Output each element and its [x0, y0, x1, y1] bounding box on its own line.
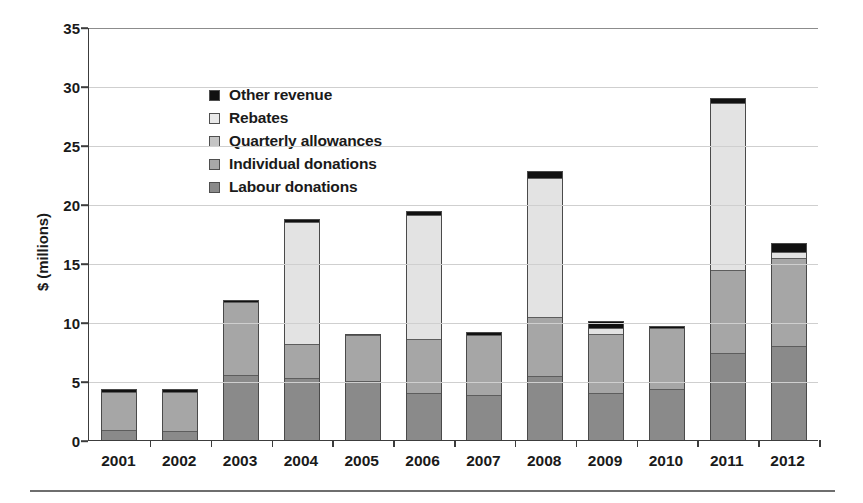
bar-segment [346, 336, 380, 382]
stacked-bar-chart: $ (millions) Other revenue Rebates Quart… [0, 0, 863, 503]
x-tick-mark [819, 440, 821, 447]
bar-segment [285, 223, 319, 345]
bar-segment [589, 394, 623, 440]
y-tick-mark-10 [81, 322, 88, 324]
footer-rule [30, 490, 835, 492]
y-tick-label-25: 25 [36, 138, 80, 155]
stacked-bar[interactable] [284, 219, 320, 440]
bar-segment [285, 345, 319, 379]
gridline-20 [89, 205, 818, 206]
bar-segment [772, 244, 806, 253]
y-tick-label-10: 10 [36, 315, 80, 332]
bar-segment [650, 329, 684, 390]
y-tick-label-35: 35 [36, 20, 80, 37]
x-tick-mark [697, 440, 699, 447]
bar-segment [224, 376, 258, 440]
bar-segment [650, 390, 684, 440]
bar-segment [407, 394, 441, 440]
bar-segment [528, 172, 562, 179]
y-tick-mark-35 [81, 27, 88, 29]
bar-slot [89, 28, 150, 440]
y-tick-mark-0 [81, 440, 88, 442]
y-tick-label-30: 30 [36, 79, 80, 96]
gridline-15 [89, 264, 818, 265]
bar-segment [224, 303, 258, 376]
bar-slot [758, 28, 819, 440]
bar-group [89, 28, 818, 440]
chart-legend: Other revenue Rebates Quarterly allowanc… [209, 84, 382, 198]
legend-swatch-labour-donations [209, 182, 220, 193]
x-tick-mark [454, 440, 456, 447]
bar-slot [454, 28, 515, 440]
x-tick-mark [332, 440, 334, 447]
x-tick-label-2012: 2012 [748, 452, 828, 470]
plot-area: Other revenue Rebates Quarterly allowanc… [88, 28, 818, 441]
bar-segment [772, 259, 806, 347]
bar-segment [467, 396, 501, 440]
bar-slot [697, 28, 758, 440]
bar-segment [711, 354, 745, 440]
bar-segment [528, 179, 562, 318]
legend-label-quarterly-allowances: Quarterly allowances [229, 132, 382, 150]
bar-segment [163, 432, 197, 440]
bar-slot [393, 28, 454, 440]
bar-slot [515, 28, 576, 440]
y-axis-title: $ (millions) [34, 213, 51, 291]
stacked-bar[interactable] [771, 243, 807, 440]
bar-slot [576, 28, 637, 440]
gridline-5 [89, 382, 818, 383]
bar-segment [711, 104, 745, 271]
legend-swatch-rebates [209, 113, 220, 124]
bar-segment [285, 379, 319, 440]
stacked-bar[interactable] [527, 171, 563, 440]
y-tick-label-5: 5 [36, 374, 80, 391]
stacked-bar[interactable] [223, 300, 259, 440]
y-tick-mark-15 [81, 263, 88, 265]
y-tick-mark-25 [81, 145, 88, 147]
stacked-bar[interactable] [466, 332, 502, 440]
bar-segment [589, 335, 623, 395]
legend-swatch-individual-donations [209, 159, 220, 170]
y-tick-mark-30 [81, 86, 88, 88]
gridline-30 [89, 87, 818, 88]
legend-label-other-revenue: Other revenue [229, 86, 332, 104]
y-tick-label-20: 20 [36, 197, 80, 214]
legend-label-labour-donations: Labour donations [229, 178, 357, 196]
gridline-10 [89, 323, 818, 324]
legend-label-individual-donations: Individual donations [229, 155, 377, 173]
bar-segment [407, 216, 441, 341]
bar-segment [163, 393, 197, 432]
y-tick-mark-20 [81, 204, 88, 206]
x-tick-mark [637, 440, 639, 447]
bar-segment [528, 318, 562, 377]
x-tick-mark [211, 440, 213, 447]
bar-segment [772, 347, 806, 440]
stacked-bar[interactable] [588, 321, 624, 440]
x-tick-mark [515, 440, 517, 447]
stacked-bar[interactable] [162, 389, 198, 440]
x-tick-mark [272, 440, 274, 447]
bar-segment [102, 431, 136, 440]
bar-segment [346, 382, 380, 440]
legend-item-individual-donations: Individual donations [209, 153, 382, 175]
stacked-bar[interactable] [710, 98, 746, 440]
gridline-25 [89, 146, 818, 147]
stacked-bar[interactable] [406, 211, 442, 440]
stacked-bar[interactable] [345, 334, 381, 440]
stacked-bar[interactable] [101, 389, 137, 440]
x-tick-mark [393, 440, 395, 447]
legend-swatch-quarterly-allowances [209, 136, 220, 147]
bar-segment [102, 393, 136, 431]
y-tick-mark-5 [81, 381, 88, 383]
bar-segment [407, 340, 441, 394]
y-tick-label-0: 0 [36, 433, 80, 450]
legend-item-rebates: Rebates [209, 107, 382, 129]
gridline-35 [89, 28, 818, 29]
legend-item-labour-donations: Labour donations [209, 176, 382, 198]
x-tick-mark [150, 440, 152, 447]
bar-segment [467, 336, 501, 396]
legend-label-rebates: Rebates [229, 109, 288, 127]
legend-swatch-other-revenue [209, 90, 220, 101]
y-tick-label-15: 15 [36, 256, 80, 273]
bar-segment [528, 377, 562, 440]
